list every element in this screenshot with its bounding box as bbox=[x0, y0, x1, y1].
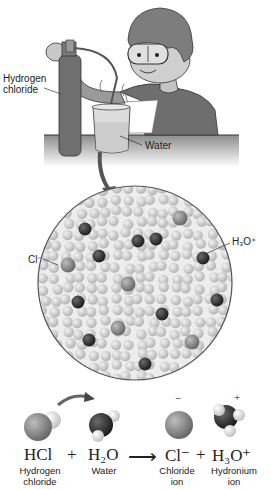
eq-plus-1: + bbox=[67, 445, 77, 465]
label-hydronium-ion: H₃O⁺ bbox=[232, 236, 256, 247]
caption-line: Hydronium bbox=[206, 465, 262, 476]
gas-cylinder bbox=[59, 40, 81, 156]
label-water: Water bbox=[145, 140, 171, 151]
label-hydrogen-chloride: Hydrogen chloride bbox=[3, 73, 46, 95]
eq-reactant-water: H₂O bbox=[88, 445, 118, 465]
caption-chloride-ion: Chloride ion bbox=[154, 465, 200, 487]
caption-hydrogen-chloride: Hydrogen chloride bbox=[14, 465, 66, 487]
caption-water: Water bbox=[84, 465, 124, 476]
charge-plus: + bbox=[234, 391, 240, 403]
eq-reactant-hcl: HCl bbox=[24, 445, 52, 465]
label-line: chloride bbox=[3, 84, 46, 95]
eq-product-hydronium: H₃O⁺ bbox=[212, 445, 251, 466]
eq-arrow: ⟶ bbox=[128, 444, 157, 468]
label-chloride-ion: Cl⁻ bbox=[28, 254, 42, 265]
charge-minus: − bbox=[175, 392, 181, 404]
magnified-view bbox=[36, 183, 243, 384]
hydronium-ion bbox=[213, 404, 245, 437]
caption-hydronium-ion: Hydronium ion bbox=[206, 465, 262, 487]
label-line: Hydrogen bbox=[3, 73, 46, 84]
beaker bbox=[92, 104, 130, 153]
proton-transfer-arrow bbox=[58, 396, 88, 405]
caption-line: ion bbox=[206, 476, 262, 487]
eq-product-chloride: Cl⁻ bbox=[165, 445, 190, 466]
chloride-ion bbox=[165, 411, 193, 439]
water-molecule bbox=[89, 410, 120, 442]
caption-line: chloride bbox=[14, 476, 66, 487]
eq-plus-2: + bbox=[196, 445, 206, 465]
caption-line: Hydrogen bbox=[14, 465, 66, 476]
caption-line: Chloride bbox=[154, 465, 200, 476]
caption-line: ion bbox=[154, 476, 200, 487]
hcl-molecule bbox=[24, 411, 61, 441]
